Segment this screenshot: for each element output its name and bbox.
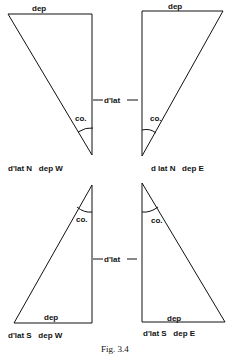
dlat-label-lower: d'lat bbox=[104, 255, 120, 264]
dep-label-bottom-left: dep bbox=[44, 313, 58, 322]
triangle-top-left bbox=[8, 14, 92, 155]
co-label-top-right: co. bbox=[150, 114, 162, 123]
triangle-bottom-left bbox=[14, 185, 92, 323]
figure-caption: Fig. 3.4 bbox=[101, 344, 129, 354]
triangle-bottom-right bbox=[142, 183, 225, 322]
co-label-bottom-left: co. bbox=[76, 215, 88, 224]
triangle-top-right bbox=[142, 11, 223, 156]
caption-bottom-right: d'lat S dep E bbox=[143, 329, 196, 338]
dep-label-top-right: dep bbox=[168, 2, 182, 11]
dep-label-top-left: dep bbox=[32, 4, 46, 13]
co-label-bottom-right: co. bbox=[151, 216, 163, 225]
caption-bottom-left: d'lat S dep W bbox=[8, 331, 63, 340]
angle-arc-bottom-right bbox=[142, 207, 158, 212]
dep-label-bottom-right: dep bbox=[167, 314, 181, 323]
caption-top-right: d lat N dep E bbox=[151, 164, 205, 173]
angle-arc-top-left bbox=[78, 128, 93, 132]
angle-arc-top-right bbox=[142, 129, 156, 133]
dlat-label-upper: d'lat bbox=[104, 96, 120, 105]
traverse-diagram: dep co. d'lat N dep W dep co. d lat N de… bbox=[0, 0, 231, 355]
co-label-top-left: co. bbox=[75, 114, 87, 123]
caption-top-left: d'lat N dep W bbox=[8, 164, 63, 173]
